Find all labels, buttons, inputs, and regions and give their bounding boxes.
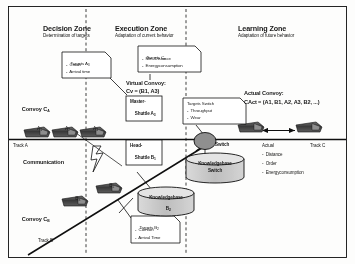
shuttle-b2-label: B2 [104, 176, 114, 194]
kb-switch-line1: Knowledgebase [186, 161, 244, 166]
zone-subtitle-decision: Determination of targets [43, 33, 90, 38]
head-shuttle-line1: Head- [130, 143, 142, 148]
track-a-label: Track A [13, 143, 28, 148]
kb-b2-line2: B2 [138, 201, 194, 218]
callout-targets-b2-item-0: - Comfort [135, 227, 154, 233]
convoy-a-label-sub: A [47, 109, 49, 113]
callout-targets-a3-header-sub: 3 [88, 63, 90, 67]
master-shuttle-line2: Shuttle A3 [130, 106, 156, 121]
leader-targets-a3 [110, 78, 127, 95]
master-shuttle-label-sub: 3 [154, 113, 156, 117]
convoy-b-label-text: Convoy C [22, 216, 47, 222]
shuttle-a2-label: A2 [60, 119, 70, 137]
callout-targets-switch-header: Targets Switch [187, 101, 214, 107]
shuttle-a1-label-sub: 1 [40, 128, 42, 132]
virtual-convoy-formula: Cv = (B1, A3) [126, 88, 159, 94]
callout-targets-a3-item-0: - Crash [66, 62, 81, 68]
zone-subtitle-execution: Adaptation of current behavior [115, 33, 174, 38]
actual-list-item-0: - Distance [262, 152, 282, 158]
convoy-a-label-text: Convoy C [22, 106, 47, 112]
callout-targets-b2-item-1: - Arrival Time [135, 235, 160, 241]
actual-list-item-2: - Energyconsumption [262, 170, 304, 176]
track-c-label: Track C [310, 143, 325, 148]
callout-targets-cv-item-0: - Min. Distance [142, 56, 171, 62]
callout-targets-cv-item-1: - Energyconsumption [142, 63, 183, 69]
kb-b2-line1: Knowledgebase [138, 195, 194, 200]
kb-b2-line2-sub: 2 [169, 208, 171, 212]
shuttle-a2-label-sub: 2 [68, 128, 70, 132]
master-shuttle-line1: Master- [130, 99, 146, 104]
shuttle-a1-label: A1 [32, 119, 42, 137]
head-shuttle-line2: Shuttle B1 [130, 150, 156, 165]
head-shuttle-label-sub: 1 [154, 157, 156, 161]
communication-bolt-icon [91, 146, 103, 172]
communication-label: Communication [23, 159, 64, 165]
actual-convoy-formula: CAct = (A1, B1, A2, A3, B2, ...) [244, 99, 320, 105]
convoy-b-label-sub: B [47, 219, 49, 223]
actual-list-header: Actual [262, 143, 274, 149]
shuttle-a3-label: A3 [88, 119, 98, 137]
switch-node [194, 133, 216, 150]
diagram-lines [0, 0, 355, 264]
callout-targets-switch-item-1: - Wear [187, 115, 201, 121]
diagram-canvas: Decision Zone Determination of targets E… [0, 0, 355, 264]
shuttle-a3-label-sub: 3 [96, 128, 98, 132]
head-shuttle-label-text: Shuttle B [135, 155, 154, 160]
switch-label: Switch [215, 142, 229, 147]
convoy-a-label: Convoy CA [16, 100, 50, 118]
virtual-convoy-title: Virtual Convoy: [126, 80, 166, 86]
callout-targets-a3-item-1: - Arrival time [66, 69, 90, 75]
actual-list-item-1: - Order [262, 161, 277, 167]
shuttle-b3-label-sub: 3 [78, 198, 80, 202]
master-shuttle-label-text: Shuttle A [135, 111, 154, 116]
kb-switch-line2: Switch [186, 168, 244, 173]
shuttle-b3-label: B3 [70, 189, 80, 207]
callout-targets-b2-header-sub: 2 [157, 227, 159, 231]
zone-subtitle-learning: Adaptation of future behavior [238, 33, 294, 38]
shuttle-actual-right-glyph [296, 122, 322, 132]
zone-title-execution: Execution Zone [115, 24, 167, 33]
shuttle-b2-label-sub: 2 [112, 185, 114, 189]
track-b-label: Track B [38, 238, 53, 243]
zone-title-learning: Learning Zone [238, 24, 286, 33]
zone-title-decision: Decision Zone [43, 24, 91, 33]
convoy-b-label: Convoy CB [16, 210, 50, 228]
actual-convoy-title: Actual Convoy: [244, 90, 284, 96]
callout-targets-switch-item-0: - Throughput [187, 108, 212, 114]
